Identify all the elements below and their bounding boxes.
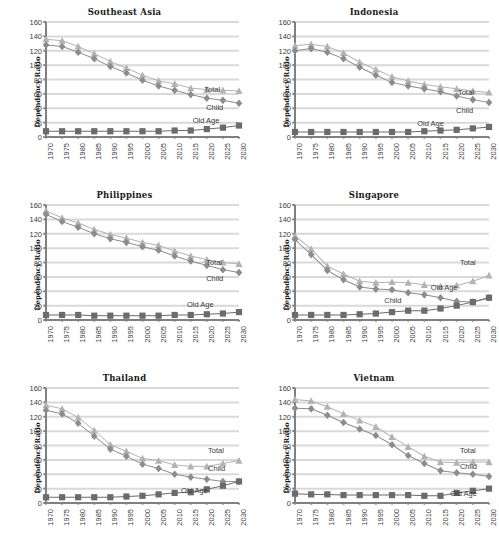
y-axis-tick-label: 40	[283, 104, 291, 113]
x-axis-tick-label: 2025	[473, 326, 482, 343]
y-axis-tick-label: 60	[283, 272, 291, 281]
y-axis-tick-label: 160	[29, 384, 42, 393]
x-axis-tick-label: 2015	[441, 509, 450, 526]
y-axis-tick-label: 100	[278, 61, 291, 70]
x-axis-tick-label: 2010	[424, 509, 433, 526]
y-axis-tick-label: 60	[283, 455, 291, 464]
x-axis-tick-label: 1975	[311, 326, 320, 343]
y-axis-tick-label: 60	[34, 272, 42, 281]
x-axis-tick-label: 2010	[175, 509, 184, 526]
x-axis-tick-label: 1980	[327, 326, 336, 343]
x-axis-tick-label: 2000	[392, 143, 401, 160]
y-axis-tick-label: 20	[34, 301, 42, 310]
y-axis-tick-label: 20	[283, 118, 291, 127]
y-axis-tick-label: 80	[283, 258, 291, 267]
y-axis-tick-label: 40	[34, 287, 42, 296]
x-axis-tick-label: 2005	[159, 326, 168, 343]
y-axis-tick-label: 120	[29, 46, 42, 55]
y-axis-tick-label: 40	[34, 470, 42, 479]
x-axis-tick-label: 1970	[46, 326, 55, 343]
chart-title: Southeast Asia	[0, 7, 249, 17]
x-axis-tick-label: 2015	[191, 326, 200, 343]
x-axis-tick-label: 1970	[46, 509, 55, 526]
x-axis-tick-label: 2005	[159, 509, 168, 526]
x-axis-tick-label: 2025	[473, 509, 482, 526]
x-axis-tick-label: 1985	[94, 509, 103, 526]
y-axis-tick-label: 160	[29, 18, 42, 27]
x-axis-tick-label: 1980	[78, 143, 87, 160]
y-axis-tick-label: 140	[29, 398, 42, 407]
x-axis-tick-label: 2020	[457, 509, 466, 526]
plot-area: 0204060801001201401601970197519801985199…	[46, 388, 239, 503]
series-label-oldage: Old Age	[181, 486, 208, 495]
y-axis-tick-label: 0	[38, 499, 42, 508]
figure-panel-grid: Southeast AsiaDependency Ratio0204060801…	[0, 0, 499, 549]
y-axis-tick-label: 0	[287, 499, 291, 508]
x-axis-tick-label: 1975	[311, 143, 320, 160]
chart-title: Vietnam	[249, 373, 499, 383]
y-axis-tick-label: 80	[283, 75, 291, 84]
x-axis-tick-label: 1985	[94, 143, 103, 160]
x-axis-tick-label: 1975	[311, 509, 320, 526]
series-label-oldage: Old Age	[187, 300, 214, 309]
y-axis-tick-label: 0	[287, 133, 291, 142]
y-axis-tick-label: 120	[29, 412, 42, 421]
x-axis-tick-label: 2000	[143, 326, 152, 343]
x-axis-tick-label: 2030	[239, 326, 248, 343]
y-axis-tick-label: 60	[283, 89, 291, 98]
x-axis-tick-label: 2025	[223, 326, 232, 343]
y-axis-tick-label: 120	[278, 412, 291, 421]
chart-title: Singapore	[249, 190, 499, 200]
x-axis-tick-label: 1980	[78, 509, 87, 526]
x-axis-tick-label: 2015	[441, 143, 450, 160]
x-axis-tick-label: 2020	[207, 509, 216, 526]
x-axis-tick-label: 1970	[46, 143, 55, 160]
y-axis-tick-label: 80	[34, 75, 42, 84]
series-label-child: Child	[384, 296, 401, 305]
y-axis-tick-label: 160	[29, 201, 42, 210]
x-axis-tick-label: 2030	[489, 143, 498, 160]
chart-title: Indonesia	[249, 7, 499, 17]
series-label-child: Child	[208, 464, 225, 473]
y-axis-tick-label: 160	[278, 201, 291, 210]
chart-panel-singapore: SingaporeDependency Ratio020406080100120…	[249, 183, 499, 366]
x-axis-tick-label: 2030	[239, 143, 248, 160]
x-axis-tick-label: 1990	[360, 509, 369, 526]
x-axis-tick-label: 1990	[110, 509, 119, 526]
x-axis-tick-label: 2010	[424, 143, 433, 160]
x-axis-tick-label: 2020	[457, 143, 466, 160]
x-axis-tick-label: 2005	[159, 143, 168, 160]
x-axis-tick-label: 1975	[62, 509, 71, 526]
y-axis-tick-label: 160	[278, 384, 291, 393]
series-label-oldage: Old Age	[431, 283, 458, 292]
x-axis-tick-label: 1990	[110, 326, 119, 343]
x-axis-tick-label: 1970	[295, 509, 304, 526]
y-axis-tick-label: 20	[34, 118, 42, 127]
x-axis-tick-label: 2000	[143, 143, 152, 160]
x-axis-tick-label: 2020	[457, 326, 466, 343]
series-label-child: Child	[456, 106, 473, 115]
series-label-total: Total	[458, 88, 474, 97]
y-axis-tick-label: 60	[34, 455, 42, 464]
x-axis-tick-label: 2010	[424, 326, 433, 343]
chart-panel-southeast-asia: Southeast AsiaDependency Ratio0204060801…	[0, 0, 249, 183]
x-axis-tick-label: 2030	[239, 509, 248, 526]
y-axis-tick-label: 0	[38, 133, 42, 142]
x-axis-tick-label: 2010	[175, 326, 184, 343]
y-axis-tick-label: 20	[283, 301, 291, 310]
x-axis-tick-label: 1985	[344, 509, 353, 526]
chart-panel-thailand: ThailandDependency Ratio0204060801001201…	[0, 366, 249, 549]
x-axis-tick-label: 1995	[126, 143, 135, 160]
series-label-oldage: Old Age	[193, 116, 220, 125]
y-axis-tick-label: 140	[278, 32, 291, 41]
series-label-total: Total	[208, 446, 224, 455]
x-axis-tick-label: 2000	[392, 326, 401, 343]
y-axis-tick-label: 80	[283, 441, 291, 450]
x-axis-tick-label: 1970	[295, 326, 304, 343]
x-axis-tick-label: 1995	[376, 326, 385, 343]
series-label-oldage: Old Age	[450, 489, 477, 498]
y-axis-tick-label: 140	[278, 398, 291, 407]
y-axis-tick-label: 0	[38, 316, 42, 325]
chart-panel-vietnam: VietnamDependency Ratio02040608010012014…	[249, 366, 499, 549]
x-axis-tick-label: 1975	[62, 326, 71, 343]
